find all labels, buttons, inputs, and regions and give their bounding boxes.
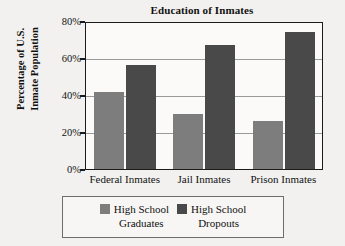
bar[interactable] [285,32,315,169]
y-axis-tick-label: 60% [35,53,81,64]
legend-swatch-icon [177,204,187,214]
y-axis-tick-label: 40% [35,90,81,101]
bar-group [86,23,165,169]
chart-title: Education of Inmates [82,4,322,17]
legend-label-line: High School [191,202,246,216]
y-axis-tick-label: 20% [35,127,81,138]
y-axis-tick-label: 80% [35,16,81,27]
bar[interactable] [94,92,124,169]
bar-group [165,23,244,169]
bar-chart: Education of Inmates Percentage of U.S. … [0,0,345,246]
y-axis-title-line-1: Percentage of U.S. [14,0,28,144]
legend-label: High SchoolDropouts [191,202,246,230]
legend-label: High SchoolGraduates [114,202,169,230]
bar[interactable] [205,45,235,169]
chart-legend: High SchoolGraduatesHigh SchoolDropouts [62,196,284,238]
legend-label-line: High School [114,202,169,216]
bar[interactable] [173,114,203,170]
bar[interactable] [126,65,156,169]
x-axis-tick-label: Prison Inmates [244,172,323,186]
legend-label-line: Dropouts [191,216,246,230]
plot-area [85,22,323,170]
legend-label-line: Graduates [114,216,169,230]
x-axis-tick-label: Jail Inmates [164,172,243,186]
bar[interactable] [253,121,283,169]
legend-entry[interactable]: High SchoolGraduates [100,202,169,230]
x-axis-tick-label: Federal Inmates [85,172,164,186]
legend-swatch-icon [100,204,110,214]
legend-entry[interactable]: High SchoolDropouts [177,202,246,230]
y-axis-tick-label: 0% [35,164,81,175]
bar-group [245,23,324,169]
